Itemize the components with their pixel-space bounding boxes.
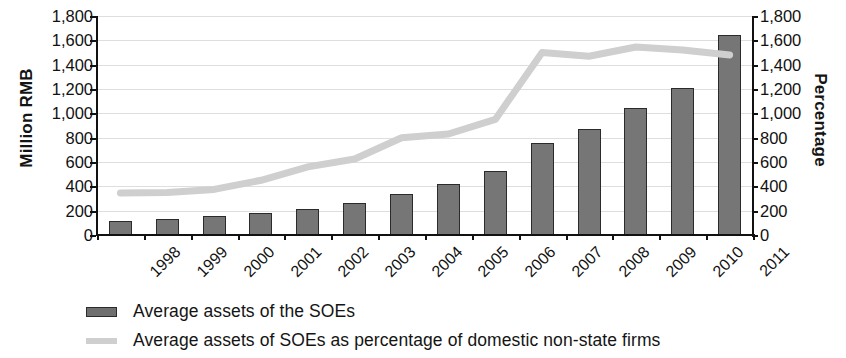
x-axis-label-2007: 2007 bbox=[569, 243, 607, 281]
x-axis-label-2002: 2002 bbox=[334, 243, 372, 281]
y-axis-left-tick-label: 200 bbox=[65, 203, 93, 220]
x-axis-label-2006: 2006 bbox=[522, 243, 560, 281]
line-series-path bbox=[120, 47, 729, 193]
y-axis-left-tick-label: 800 bbox=[65, 130, 93, 147]
y-axis-right-tick-label: 800 bbox=[760, 130, 788, 147]
y-axis-left-tick-label: 600 bbox=[65, 154, 93, 171]
x-axis-label-1999: 1999 bbox=[194, 243, 232, 281]
legend-item-line: Average assets of SOEs as percentage of … bbox=[86, 326, 826, 355]
legend-label-line: Average assets of SOEs as percentage of … bbox=[133, 330, 660, 351]
y-axis-left-line bbox=[96, 16, 98, 235]
x-axis-label-1998: 1998 bbox=[147, 243, 185, 281]
legend-swatch-bar-icon bbox=[86, 307, 117, 317]
line-series bbox=[97, 16, 753, 235]
x-axis-label-2000: 2000 bbox=[241, 243, 279, 281]
y-axis-left-tick-label: 1,600 bbox=[52, 32, 93, 49]
x-axis-label-2008: 2008 bbox=[615, 243, 653, 281]
chart-container: Million RMB Percentage 02004006008001,00… bbox=[0, 0, 846, 358]
y-axis-right-tick-label: 1,800 bbox=[760, 8, 801, 25]
y-axis-right-tick-label: 0 bbox=[760, 227, 769, 244]
legend-swatch-line-icon bbox=[86, 338, 117, 344]
y-axis-left-tick-labels: 02004006008001,0001,2001,4001,6001,800 bbox=[20, 0, 93, 358]
y-axis-right-tick-label: 1,400 bbox=[760, 57, 801, 74]
y-axis-right-tick-label: 1,600 bbox=[760, 32, 801, 49]
x-axis-label-2003: 2003 bbox=[381, 243, 419, 281]
y-axis-right-tick-label: 600 bbox=[760, 154, 788, 171]
chart-legend: Average assets of the SOEs Average asset… bbox=[86, 297, 826, 355]
y-axis-left-tick-label: 1,000 bbox=[52, 105, 93, 122]
y-axis-left-tick-label: 1,400 bbox=[52, 57, 93, 74]
y-axis-left-tick-label: 400 bbox=[65, 178, 93, 195]
x-axis-label-2005: 2005 bbox=[475, 243, 513, 281]
x-axis-tick-labels: 1998199920002001200220032004200520062007… bbox=[97, 235, 753, 290]
legend-item-bars: Average assets of the SOEs bbox=[86, 297, 826, 326]
x-axis-label-2009: 2009 bbox=[662, 243, 700, 281]
y-axis-right-line bbox=[752, 16, 754, 235]
x-axis-label-2001: 2001 bbox=[287, 243, 325, 281]
y-axis-left-tick-label: 1,800 bbox=[52, 8, 93, 25]
plot-area bbox=[97, 16, 753, 235]
y-axis-right-tick-label: 400 bbox=[760, 178, 788, 195]
y-axis-right-tick-label: 1,000 bbox=[760, 105, 801, 122]
y-axis-right-tick-label: 1,200 bbox=[760, 81, 801, 98]
y-axis-right-tick-label: 200 bbox=[760, 203, 788, 220]
x-axis-label-2010: 2010 bbox=[709, 243, 747, 281]
x-axis-label-2004: 2004 bbox=[428, 243, 466, 281]
legend-label-bars: Average assets of the SOEs bbox=[133, 301, 355, 322]
y-axis-left-tick-label: 1,200 bbox=[52, 81, 93, 98]
